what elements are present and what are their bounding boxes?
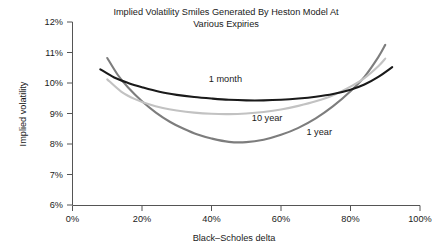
y-tick-label: 11% (45, 48, 63, 58)
y-axis-title: Implied volatility (18, 81, 28, 146)
series-curves (100, 45, 392, 143)
x-axis-title: Black–Scholes delta (193, 233, 277, 243)
x-axis: 0%20%40%60%80%100% (66, 206, 432, 225)
chart-title-line1: Implied Volatility Smiles Generated By H… (113, 7, 339, 17)
series-annotations: 1 month10 year1 year (209, 74, 332, 137)
y-tick-label: 12% (45, 17, 63, 27)
y-tick-label: 7% (50, 170, 63, 180)
series-curve-10-year (107, 59, 385, 115)
x-tick-label: 20% (133, 214, 151, 224)
x-tick-label: 40% (202, 214, 220, 224)
y-tick-label: 8% (50, 139, 63, 149)
chart-figure: Implied Volatility Smiles Generated By H… (0, 0, 444, 248)
series-label-1-month: 1 month (209, 74, 242, 84)
series-label-10-year: 10 year (252, 113, 283, 123)
y-axis: 6%7%8%9%10%11%12% (45, 17, 73, 210)
x-tick-label: 0% (66, 214, 79, 224)
series-curve-1-month (100, 67, 392, 100)
series-curve-1-year (107, 45, 385, 143)
y-tick-label: 9% (50, 109, 63, 119)
chart-title-line2: Various Expiries (193, 19, 259, 29)
x-tick-label: 100% (408, 214, 432, 224)
y-tick-label: 10% (45, 78, 63, 88)
series-label-1-year: 1 year (306, 127, 332, 137)
chart-canvas: Implied Volatility Smiles Generated By H… (0, 0, 444, 248)
y-tick-label: 6% (50, 200, 63, 210)
x-tick-label: 60% (272, 214, 290, 224)
x-tick-label: 80% (341, 214, 359, 224)
